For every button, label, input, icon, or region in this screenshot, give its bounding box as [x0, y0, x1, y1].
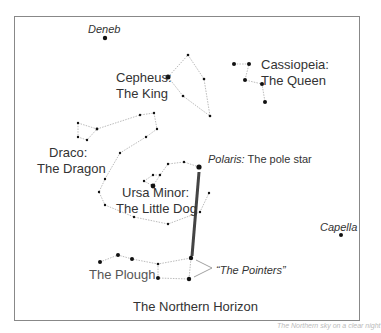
- draco-label-2: The Dragon: [37, 161, 106, 177]
- polaris-name: Polaris:: [208, 153, 245, 165]
- figure-caption: The Northern sky on a clear night: [277, 322, 381, 329]
- polaris-label: Polaris: The pole star: [208, 151, 312, 167]
- pointers-label: “The Pointers”: [216, 262, 286, 278]
- ursa-minor-label-1: Ursa Minor:: [122, 185, 189, 201]
- pointers-arrow: [194, 260, 212, 277]
- plough-label: The Plough: [89, 267, 156, 283]
- horizon-label: The Northern Horizon: [133, 299, 258, 315]
- cepheus-label-2: The King: [116, 86, 168, 102]
- draco-label-1: Draco:: [49, 145, 87, 161]
- ursa-minor-label-2: The Little Dog: [116, 201, 197, 217]
- cassiopeia-label-1: Cassiopeia:: [261, 57, 329, 73]
- cassiopeia-label-2: The Queen: [261, 73, 326, 89]
- polaris-desc: The pole star: [245, 153, 312, 165]
- ursa-minor-lines: [144, 162, 199, 186]
- cepheus-label-1: Cepheus:: [116, 70, 172, 86]
- deneb-label: Deneb: [88, 21, 120, 37]
- cepheus-lines: [168, 55, 210, 116]
- draco-lines: [78, 123, 97, 140]
- capella-label: Capella: [320, 219, 357, 235]
